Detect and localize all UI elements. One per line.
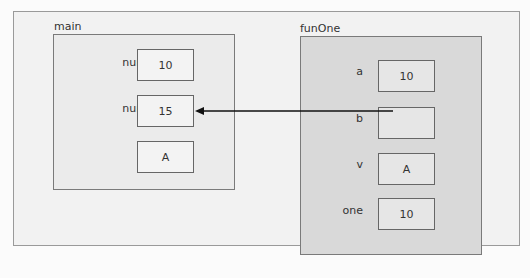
arrowhead-icon [195, 107, 204, 115]
reference-arrow-layer [0, 0, 530, 278]
